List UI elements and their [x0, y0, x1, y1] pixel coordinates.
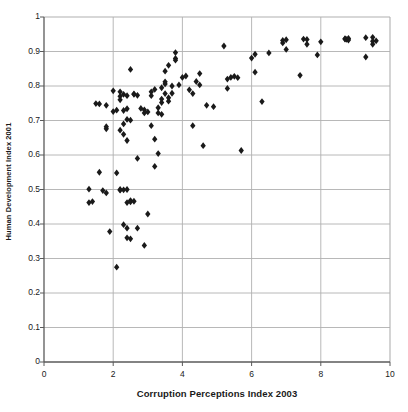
- data-point: [190, 90, 195, 97]
- data-point: [266, 49, 271, 56]
- data-point: [363, 54, 368, 61]
- data-point: [145, 211, 150, 218]
- data-point: [149, 92, 154, 99]
- data-point: [249, 55, 254, 62]
- data-point: [90, 198, 95, 205]
- data-point: [152, 136, 157, 143]
- data-point: [104, 102, 109, 109]
- data-point: [86, 186, 91, 193]
- data-point: [318, 38, 323, 45]
- data-point: [162, 90, 167, 97]
- data-point: [187, 86, 192, 93]
- data-point: [156, 150, 161, 157]
- data-point: [169, 83, 174, 90]
- data-point: [159, 84, 164, 91]
- data-point: [128, 117, 133, 124]
- data-point: [131, 198, 136, 205]
- data-point: [114, 170, 119, 177]
- data-point: [162, 68, 167, 75]
- data-point: [204, 102, 209, 109]
- data-point: [252, 69, 257, 76]
- data-point: [97, 101, 102, 108]
- data-point: [117, 127, 122, 134]
- data-point: [107, 228, 112, 235]
- data-point: [190, 122, 195, 129]
- data-point: [169, 90, 174, 97]
- data-point: [152, 163, 157, 170]
- data-point: [363, 34, 368, 41]
- data-point: [149, 122, 154, 129]
- data-point: [121, 131, 126, 138]
- data-point: [201, 142, 206, 149]
- data-point: [304, 41, 309, 48]
- axis-tick-marks: [40, 17, 390, 366]
- data-point: [197, 70, 202, 77]
- data-point: [211, 103, 216, 110]
- data-point: [117, 96, 122, 103]
- data-point: [128, 66, 133, 73]
- data-point: [135, 225, 140, 232]
- data-point: [159, 99, 164, 106]
- data-point: [315, 52, 320, 59]
- data-points: [86, 34, 378, 271]
- data-point: [221, 43, 226, 50]
- scatter-chart: Human Development Index 2001 00.10.20.30…: [0, 0, 408, 412]
- data-point: [111, 87, 116, 94]
- data-point: [259, 98, 264, 105]
- data-point: [239, 147, 244, 154]
- data-point: [166, 98, 171, 105]
- data-point: [176, 82, 181, 89]
- data-point: [297, 72, 302, 79]
- data-point: [173, 49, 178, 56]
- grid-lines: [44, 17, 390, 362]
- data-point: [97, 169, 102, 176]
- data-point: [114, 264, 119, 271]
- data-point: [142, 242, 147, 249]
- data-point: [121, 121, 126, 128]
- data-point: [135, 155, 140, 162]
- data-point: [166, 62, 171, 69]
- data-point: [124, 137, 129, 144]
- data-point: [128, 235, 133, 242]
- x-axis-title: Corruption Perceptions Index 2003: [44, 388, 390, 399]
- data-point: [124, 186, 129, 193]
- plot-area: [0, 0, 408, 412]
